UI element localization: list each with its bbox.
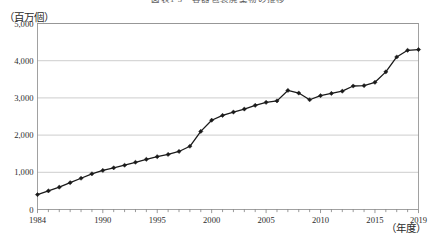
data-point-marker bbox=[112, 166, 116, 170]
data-point-marker bbox=[79, 176, 83, 180]
x-tick-label: 2005 bbox=[258, 215, 275, 225]
data-point-marker bbox=[57, 185, 61, 189]
x-tick-label: 1984 bbox=[29, 215, 47, 225]
y-tick-label: 0 bbox=[29, 205, 33, 215]
plot-border bbox=[38, 24, 419, 210]
y-tick-label: 3,000 bbox=[14, 93, 33, 103]
x-tick-label: 2015 bbox=[366, 215, 383, 225]
data-point-marker bbox=[68, 181, 72, 185]
data-series-markers bbox=[35, 47, 420, 196]
data-point-marker bbox=[177, 149, 181, 153]
y-axis-tick-labels: 01,0002,0003,0004,0005,000 bbox=[14, 19, 33, 215]
x-tick-label: 2000 bbox=[203, 215, 220, 225]
x-axis-tick-labels: 19841990199520002005201020152019 bbox=[29, 215, 427, 225]
y-tick-label: 2,000 bbox=[14, 130, 33, 140]
data-point-marker bbox=[416, 47, 420, 51]
y-tick-label: 5,000 bbox=[14, 19, 33, 29]
data-point-marker bbox=[264, 100, 268, 104]
x-tick-label: 1995 bbox=[149, 215, 166, 225]
data-point-marker bbox=[133, 160, 137, 164]
x-tick-label: 2019 bbox=[410, 215, 427, 225]
data-point-marker bbox=[362, 84, 366, 88]
data-series-line bbox=[38, 50, 419, 195]
data-point-marker bbox=[253, 103, 257, 107]
data-point-marker bbox=[231, 110, 235, 114]
x-tick-label: 1990 bbox=[94, 215, 111, 225]
gridlines bbox=[38, 24, 419, 173]
data-point-marker bbox=[144, 157, 148, 161]
x-tick-label: 2010 bbox=[312, 215, 329, 225]
data-point-marker bbox=[351, 84, 355, 88]
data-point-marker bbox=[46, 189, 50, 193]
data-point-marker bbox=[329, 91, 333, 95]
data-point-marker bbox=[101, 168, 105, 172]
x-axis-ticks bbox=[38, 210, 419, 214]
data-point-marker bbox=[318, 94, 322, 98]
data-point-marker bbox=[242, 107, 246, 111]
plot-frame bbox=[38, 24, 419, 210]
data-point-marker bbox=[340, 89, 344, 93]
chart-figure: 図表1-3 容器包装廃棄物の推移 （百万個） （年度） 01,0002,0003… bbox=[0, 0, 437, 240]
data-point-marker bbox=[35, 193, 39, 197]
data-point-marker bbox=[122, 163, 126, 167]
y-tick-label: 4,000 bbox=[14, 56, 33, 66]
y-tick-label: 1,000 bbox=[14, 167, 33, 177]
data-point-marker bbox=[166, 152, 170, 156]
data-point-marker bbox=[220, 113, 224, 117]
data-point-marker bbox=[155, 155, 159, 159]
line-chart-plot: 01,0002,0003,0004,0005,000 1984199019952… bbox=[0, 0, 437, 240]
